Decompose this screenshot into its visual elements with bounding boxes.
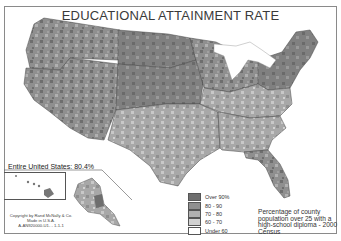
region-southeast xyxy=(218,112,286,152)
legend-item: 80 - 90 xyxy=(188,201,229,209)
region-northern-plains xyxy=(118,30,196,68)
national-rate-value: 80.4% xyxy=(74,163,94,170)
region-southwest xyxy=(24,58,118,140)
region-south-central xyxy=(108,104,220,186)
legend-swatch xyxy=(188,227,201,235)
region-florida xyxy=(244,150,290,198)
legend: Over 90% 80 - 90 70 - 80 60 - 70 Under 6… xyxy=(188,193,229,235)
national-rate-label: Entire United States: xyxy=(8,163,72,170)
legend-swatch xyxy=(188,210,201,218)
national-rate: Entire United States: 80.4% xyxy=(8,163,94,170)
legend-item: Over 90% xyxy=(188,193,229,201)
copyright: Copyright by Rand McNally & Co. Made in … xyxy=(6,213,76,228)
map-note: Percentage of county population over 25 … xyxy=(258,209,340,235)
legend-swatch xyxy=(188,218,201,226)
legend-item: 60 - 70 xyxy=(188,218,229,226)
legend-item: 70 - 80 xyxy=(188,210,229,218)
hawaii-inset xyxy=(4,172,66,200)
copyright-line-3: A-AN920000-U1- - 1-1-1 xyxy=(6,223,76,228)
legend-swatch xyxy=(188,202,201,210)
legend-swatch xyxy=(188,193,201,201)
region-central-plains xyxy=(116,60,204,110)
us-map xyxy=(0,0,341,241)
legend-item: Under 60 xyxy=(188,227,229,235)
